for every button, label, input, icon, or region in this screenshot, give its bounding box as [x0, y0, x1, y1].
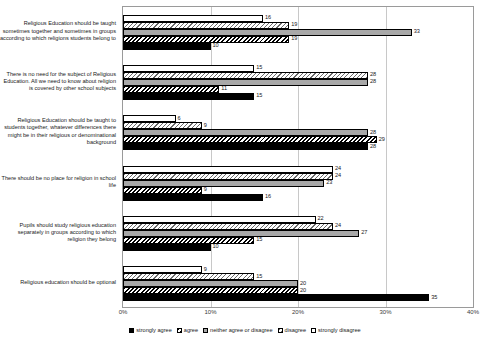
bar-neither-agree-or-disagree [123, 129, 368, 136]
bar-row: 27 [123, 230, 473, 237]
bar-row: 24 [123, 166, 473, 173]
bar-strongly-disagree [123, 216, 316, 223]
bar-group: 242423916 [123, 158, 473, 208]
bar-row: 16 [123, 194, 473, 201]
bar-value-label: 9 [202, 266, 207, 274]
bar-row: 24 [123, 223, 473, 230]
category-label: There is no need for the subject of Reli… [0, 71, 116, 93]
bar-disagree [123, 223, 333, 230]
plot-area: 1619331910152828111569282928242423916222… [122, 6, 474, 308]
bar-value-label: 15 [254, 92, 262, 100]
bar-row: 33 [123, 29, 473, 36]
x-tick-label: 20% [292, 309, 304, 315]
bar-value-label: 16 [263, 14, 271, 22]
category-label: Pupils should study religious education … [0, 222, 116, 244]
bar-value-label: 27 [359, 229, 367, 237]
bar-strongly-disagree [123, 115, 176, 122]
legend-label: strongly agree [136, 327, 171, 333]
bar-row: 9 [123, 122, 473, 129]
bar-value-label: 19 [289, 21, 297, 29]
category-label: Religious Education should be taught som… [0, 20, 116, 42]
x-tick-label: 30% [379, 309, 391, 315]
bar-agree [123, 237, 254, 244]
bar-strongly-agree [123, 143, 368, 150]
category-axis-labels: Religious Education should be taught som… [0, 6, 120, 308]
legend-item: disagree [278, 327, 306, 333]
category-label: Religious Education should be taught to … [0, 117, 116, 147]
bar-value-label: 33 [412, 28, 420, 36]
bar-row: 16 [123, 15, 473, 22]
bar-chart: Religious Education should be taught som… [0, 0, 490, 342]
bar-disagree [123, 22, 289, 29]
bar-neither-agree-or-disagree [123, 180, 324, 187]
legend-label: neither agree or disagree [210, 327, 273, 333]
bar-disagree [123, 273, 254, 280]
bar-strongly-disagree [123, 15, 263, 22]
legend-swatch-icon [203, 328, 208, 333]
bar-agree [123, 287, 298, 294]
bar-row: 19 [123, 22, 473, 29]
bar-neither-agree-or-disagree [123, 79, 368, 86]
bar-neither-agree-or-disagree [123, 29, 412, 36]
bar-strongly-agree [123, 194, 263, 201]
bar-row: 23 [123, 180, 473, 187]
bar-strongly-disagree [123, 65, 254, 72]
bar-row: 22 [123, 216, 473, 223]
bar-value-label: 28 [368, 78, 376, 86]
bar-row: 11 [123, 86, 473, 93]
bar-row: 19 [123, 36, 473, 43]
legend-swatch-icon [177, 328, 182, 333]
bar-row: 20 [123, 287, 473, 294]
bar-row: 28 [123, 72, 473, 79]
legend: strongly agreeagreeneither agree or disa… [0, 327, 490, 333]
bar-group: 1619331910 [123, 7, 473, 57]
bar-row: 10 [123, 43, 473, 50]
bar-value-label: 28 [368, 129, 376, 137]
bar-value-label: 9 [202, 186, 207, 194]
bar-value-label: 35 [429, 294, 437, 302]
x-tick-label: 0% [119, 309, 128, 315]
bar-row: 15 [123, 65, 473, 72]
bar-strongly-disagree [123, 166, 333, 173]
bar-disagree [123, 173, 333, 180]
bar-value-label: 22 [316, 215, 324, 223]
bar-value-label: 16 [263, 193, 271, 201]
bar-group: 69282928 [123, 108, 473, 158]
legend-item: strongly agree [129, 327, 171, 333]
bar-value-label: 19 [289, 35, 297, 43]
bar-disagree [123, 72, 368, 79]
bar-agree [123, 86, 219, 93]
legend-label: strongly disagree [318, 327, 361, 333]
bar-row: 10 [123, 244, 473, 251]
bar-row: 9 [123, 187, 473, 194]
bar-group: 1528281115 [123, 57, 473, 107]
bar-strongly-agree [123, 43, 211, 50]
bar-row: 28 [123, 143, 473, 150]
bar-value-label: 10 [211, 243, 219, 251]
bar-row: 28 [123, 79, 473, 86]
bar-value-label: 11 [219, 85, 227, 93]
category-label: There should be no place for religion in… [0, 175, 116, 190]
x-axis-ticks: 0%10%20%30%40% [0, 309, 490, 321]
bar-value-label: 9 [202, 122, 207, 130]
legend-item: agree [177, 327, 198, 333]
bar-value-label: 23 [324, 179, 332, 187]
bar-strongly-agree [123, 294, 429, 301]
x-tick-label: 40% [467, 309, 479, 315]
bar-row: 9 [123, 266, 473, 273]
bar-group: 2224271510 [123, 208, 473, 258]
bar-value-label: 20 [298, 287, 306, 295]
legend-swatch-icon [311, 328, 316, 333]
bar-row: 15 [123, 93, 473, 100]
bar-value-label: 6 [176, 115, 181, 123]
bar-row: 15 [123, 237, 473, 244]
legend-swatch-icon [129, 328, 134, 333]
bar-value-label: 24 [333, 222, 341, 230]
bar-row: 28 [123, 129, 473, 136]
bar-strongly-disagree [123, 266, 202, 273]
bar-neither-agree-or-disagree [123, 280, 298, 287]
bar-value-label: 10 [211, 42, 219, 50]
bar-value-label: 15 [254, 273, 262, 281]
bar-strongly-agree [123, 244, 211, 251]
bar-row: 24 [123, 173, 473, 180]
